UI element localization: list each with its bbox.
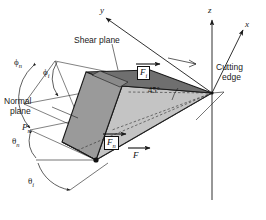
cut-direction-arrow (168, 58, 196, 67)
angle-arc-theta-n (29, 134, 36, 158)
theta-n-sub: n (16, 141, 19, 148)
force-Fn-sub: n (113, 142, 116, 149)
diagram-canvas (0, 0, 266, 220)
force-F-symbol: F (133, 150, 139, 160)
label-shear-plane: Shear plane (74, 36, 120, 45)
angle-arc-phi-i (52, 62, 58, 96)
leader-shear-plane (112, 44, 118, 70)
oblique-cutting-diagram: y z x Shear plane Normal plane Pn Cuttin… (0, 0, 266, 220)
axis-label-z: z (208, 6, 212, 15)
label-force-Fn: Fn (104, 136, 119, 150)
label-cutting-edge-line2: edge (222, 73, 241, 82)
label-angle-theta-n: θn (12, 137, 20, 149)
label-normal-plane-line1: Normal (4, 97, 31, 106)
label-normal-plane-line2: plane (10, 107, 31, 116)
label-force-F: F (133, 150, 139, 160)
normal-plane-symbol-sub: n (28, 127, 31, 134)
label-angle-45: 45° (148, 85, 160, 95)
phi-n-sub: n (19, 62, 22, 69)
label-angle-phi-n: ϕn (14, 58, 22, 70)
label-cutting-edge-line1: Cutting (216, 63, 243, 72)
label-angle-phi-i: ϕi (43, 68, 50, 80)
axis-label-x: x (245, 20, 249, 29)
angle-arc-theta-i (38, 163, 70, 190)
label-normal-plane-symbol: Pn (22, 117, 31, 135)
force-Fi-sub: i (146, 72, 148, 79)
label-angle-theta-i: θi (28, 177, 34, 189)
axis-label-y: y (100, 6, 104, 15)
label-force-Fi: Fi (137, 66, 150, 80)
theta-i-sub: i (32, 181, 34, 188)
phi-i-sub: i (48, 72, 50, 79)
theta-vertex-lines (36, 160, 108, 190)
